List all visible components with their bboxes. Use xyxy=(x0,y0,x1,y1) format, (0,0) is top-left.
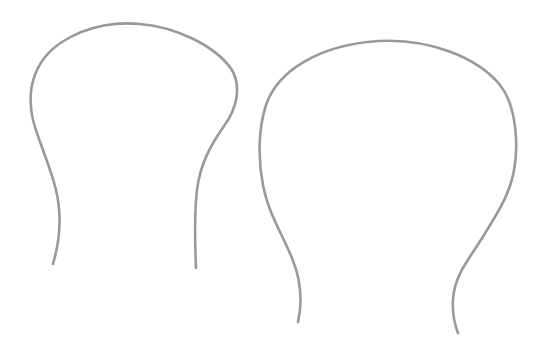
left-bell-outline xyxy=(31,23,237,268)
right-bell-outline xyxy=(260,41,517,333)
outline-drawing xyxy=(0,0,539,355)
drawing-canvas xyxy=(0,0,539,355)
